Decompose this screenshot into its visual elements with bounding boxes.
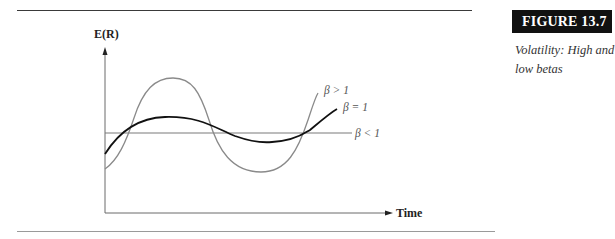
beta-less-than-1-label: β < 1 [354, 127, 380, 140]
x-axis-arrow-icon [385, 211, 393, 216]
beta-greater-than-1-label: β > 1 [323, 84, 349, 97]
y-axis-arrow-icon [103, 47, 108, 55]
y-axis-label: E(R) [94, 27, 119, 41]
x-axis-label: Time [396, 206, 423, 220]
beta-equal-1-label: β = 1 [342, 101, 368, 114]
